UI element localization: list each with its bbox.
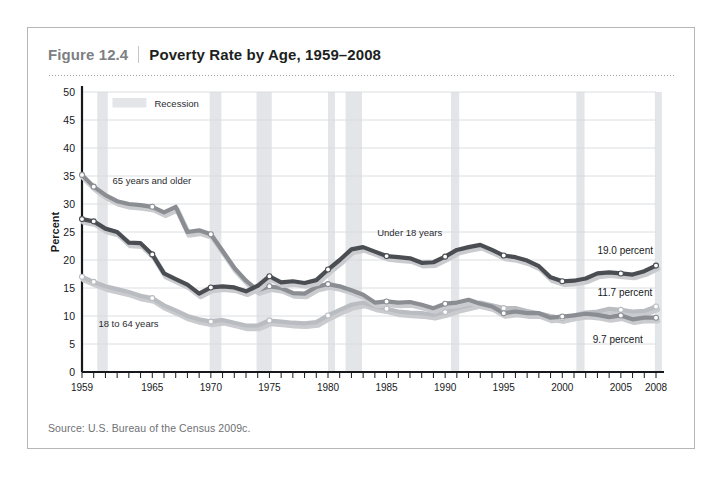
series-label-age65plus: 65 years and older [112, 175, 191, 186]
data-point-age65plus [560, 314, 565, 319]
data-point-age18to64 [208, 319, 213, 324]
legend-recession-swatch [112, 98, 146, 108]
page-title: Poverty Rate by Age, 1959–2008 [149, 46, 381, 63]
chart-area: 05101520253035404550Percent1959196519701… [48, 86, 676, 406]
data-point-under18 [267, 274, 272, 279]
figure-screenshot: Figure 12.4 Poverty Rate by Age, 1959–20… [0, 0, 723, 482]
data-point-under18 [384, 254, 389, 259]
data-point-under18 [618, 271, 623, 276]
x-axis-tick-label: 1970 [200, 382, 223, 393]
data-point-under18 [91, 219, 96, 224]
data-point-age18to64 [80, 274, 85, 279]
y-axis-tick-label: 5 [69, 338, 75, 350]
legend-recession-label: Recession [154, 98, 198, 109]
data-point-under18 [326, 267, 331, 272]
y-axis-tick-label: 0 [69, 366, 75, 378]
data-point-age65plus [443, 301, 448, 306]
series-label-age18to64: 18 to 64 years [98, 318, 158, 329]
figure-card: Figure 12.4 Poverty Rate by Age, 1959–20… [27, 27, 695, 449]
data-point-age65plus [618, 313, 623, 318]
data-point-under18 [150, 252, 155, 257]
x-axis-tick-label: 1965 [141, 382, 164, 393]
x-axis-tick-label: 1980 [317, 382, 340, 393]
y-axis-tick-label: 50 [63, 86, 75, 98]
title-separator [138, 46, 139, 63]
x-axis-tick-label: 1990 [434, 382, 457, 393]
data-point-under18 [560, 279, 565, 284]
data-point-age18to64 [326, 313, 331, 318]
x-axis-tick-label: 2008 [645, 382, 668, 393]
endpoint-label-18to64: 11.7 percent [597, 287, 652, 298]
y-axis-tick-label: 45 [63, 114, 75, 126]
data-point-age18to64 [654, 304, 659, 309]
data-point-age18to64 [267, 318, 272, 323]
y-axis-tick-label: 10 [63, 310, 75, 322]
endpoint-label-65plus: 9.7 percent [593, 334, 643, 345]
endpoint-label-under18: 19.0 percent [597, 245, 653, 256]
y-axis-title: Percent [49, 211, 61, 252]
series-line-under18 [82, 219, 656, 293]
data-point-age65plus [501, 311, 506, 316]
data-point-age65plus [384, 299, 389, 304]
data-point-under18 [501, 253, 506, 258]
x-axis-tick-label: 1959 [71, 382, 94, 393]
data-point-age18to64 [618, 307, 623, 312]
data-point-age18to64 [91, 279, 96, 284]
y-axis-tick-label: 35 [63, 170, 75, 182]
data-point-under18 [208, 285, 213, 290]
y-axis-tick-label: 30 [63, 198, 75, 210]
dotted-divider [48, 74, 676, 76]
data-point-under18 [80, 217, 85, 222]
data-point-age65plus [91, 184, 96, 189]
data-point-age18to64 [501, 306, 506, 311]
poverty-rate-line-chart: 05101520253035404550Percent1959196519701… [48, 86, 676, 406]
x-axis-tick-label: 2005 [610, 382, 633, 393]
y-axis-tick-label: 20 [63, 254, 75, 266]
data-point-age65plus [150, 204, 155, 209]
data-point-age18to64 [443, 310, 448, 315]
data-point-age65plus [654, 315, 659, 320]
data-point-age65plus [326, 282, 331, 287]
data-point-age65plus [267, 284, 272, 289]
figure-number: Figure 12.4 [48, 46, 128, 63]
y-axis-tick-label: 40 [63, 142, 75, 154]
x-axis-tick-label: 1995 [493, 382, 516, 393]
data-point-age18to64 [384, 306, 389, 311]
data-point-age65plus [208, 232, 213, 237]
data-point-under18 [443, 254, 448, 259]
series-label-under18: Under 18 years [377, 227, 442, 238]
data-point-age18to64 [150, 296, 155, 301]
x-axis-tick-label: 2000 [551, 382, 574, 393]
y-axis-tick-label: 15 [63, 282, 75, 294]
source-note: Source: U.S. Bureau of the Census 2009c. [48, 422, 250, 434]
data-point-age65plus [80, 172, 85, 177]
x-axis-tick-label: 1975 [258, 382, 281, 393]
data-point-under18 [654, 263, 659, 268]
series-shadow-under18 [84, 222, 658, 296]
y-axis-tick-label: 25 [63, 226, 75, 238]
figure-title-row: Figure 12.4 Poverty Rate by Age, 1959–20… [48, 42, 381, 66]
x-axis-tick-label: 1985 [375, 382, 398, 393]
